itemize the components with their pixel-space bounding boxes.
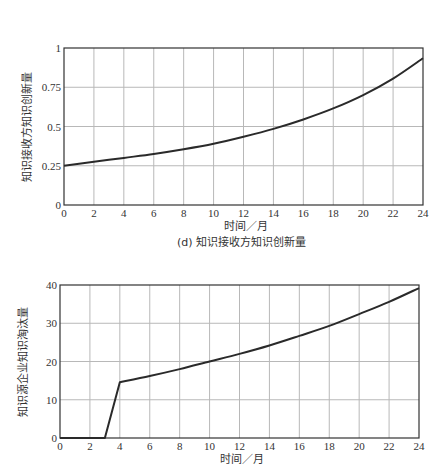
x-tick-label: 0 <box>61 207 67 219</box>
x-tick-label: 18 <box>324 440 336 452</box>
x-tick-label: 18 <box>328 207 340 219</box>
x-tick-label: 10 <box>208 207 220 219</box>
x-tick-label: 20 <box>358 207 370 219</box>
x-tick-label: 6 <box>147 440 153 452</box>
x-axis-ticks: 024681012141618202224 <box>57 440 425 452</box>
x-tick-label: 0 <box>57 440 63 452</box>
x-tick-label: 4 <box>117 440 123 452</box>
y-axis-ticks: 010203040 <box>46 279 58 444</box>
x-tick-label: 10 <box>204 440 216 452</box>
x-tick-label: 6 <box>151 207 157 219</box>
y-tick-label: 20 <box>46 356 58 368</box>
y-tick-label: 40 <box>46 279 58 291</box>
chart-knowledge-obsolescence: 024681012141618202224010203040时间／月知识源企业知… <box>0 260 448 464</box>
x-axis-label: 时间／月 <box>224 220 268 233</box>
x-tick-label: 14 <box>264 440 276 452</box>
y-tick-label: 30 <box>46 317 58 329</box>
y-tick-label: 10 <box>46 394 58 406</box>
x-tick-label: 20 <box>354 440 366 452</box>
x-axis-label: 时间／月 <box>220 453 264 464</box>
x-axis-ticks: 024681012141618202224 <box>61 207 429 219</box>
x-tick-label: 22 <box>384 440 395 452</box>
figure-caption: (d) 知识接收方知识创新量 <box>177 235 306 249</box>
gridlines <box>64 48 423 205</box>
y-axis-ticks: 00.250.50.751 <box>42 42 62 211</box>
x-tick-label: 12 <box>234 440 245 452</box>
x-tick-label: 24 <box>414 440 426 452</box>
x-tick-label: 16 <box>298 207 310 219</box>
x-tick-label: 8 <box>177 440 183 452</box>
gridlines <box>60 285 419 438</box>
y-tick-label: 0.25 <box>42 160 62 172</box>
x-tick-label: 16 <box>294 440 306 452</box>
x-tick-label: 22 <box>388 207 399 219</box>
y-axis-label: 知识源企业知识淘汰量 <box>16 307 30 417</box>
x-tick-label: 4 <box>121 207 127 219</box>
x-tick-label: 2 <box>87 440 93 452</box>
y-tick-label: 0 <box>52 432 58 444</box>
x-tick-label: 12 <box>238 207 249 219</box>
line-chart-svg: 02468101214161820222400.250.50.751时间／月知识… <box>0 0 448 260</box>
x-tick-label: 2 <box>91 207 97 219</box>
line-chart-svg: 024681012141618202224010203040时间／月知识源企业知… <box>0 260 448 464</box>
x-tick-label: 14 <box>268 207 280 219</box>
x-tick-label: 8 <box>181 207 187 219</box>
y-tick-label: 0.75 <box>42 81 62 93</box>
chart-knowledge-innovation: 02468101214161820222400.250.50.751时间／月知识… <box>0 0 448 260</box>
y-tick-label: 0.5 <box>47 121 61 133</box>
y-axis-label: 知识接收方知识创新量 <box>20 72 34 182</box>
y-tick-label: 1 <box>56 42 62 54</box>
x-tick-label: 24 <box>418 207 430 219</box>
y-tick-label: 0 <box>56 199 62 211</box>
